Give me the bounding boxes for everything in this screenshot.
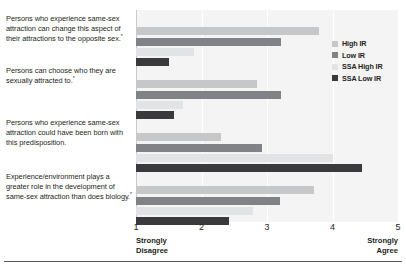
- category-label: Persons can choose who they are sexually…: [6, 66, 133, 86]
- legend-label: SSA High IR: [342, 62, 383, 71]
- bar: [136, 101, 183, 109]
- bar: [136, 58, 169, 66]
- axis-anchor-low-line2: Disagree: [136, 246, 168, 256]
- x-tick-label: 1: [133, 222, 138, 232]
- bar: [136, 27, 319, 35]
- x-tick-label: 4: [330, 222, 335, 232]
- bar: [136, 38, 281, 46]
- bar: [136, 207, 253, 215]
- bar-group: [136, 133, 398, 154]
- bar: [136, 111, 174, 119]
- axis-anchor-low: Strongly Disagree: [136, 236, 168, 255]
- legend-label: Low IR: [342, 51, 365, 60]
- legend-swatch-icon: [332, 52, 338, 58]
- axis-anchor-high-line1: Strongly: [330, 236, 398, 246]
- legend-swatch-icon: [332, 64, 338, 70]
- bar: [136, 197, 280, 205]
- footnote-marker: *: [121, 33, 123, 39]
- grouped-bar-chart: Persons who experience same-sex attracti…: [0, 0, 406, 268]
- axis-anchor-high-line2: Agree: [330, 246, 398, 256]
- bar-group: [136, 186, 398, 207]
- x-axis-tick-labels: 12345: [136, 222, 398, 236]
- footnote-marker: *: [130, 191, 132, 197]
- legend-swatch-icon: [332, 75, 338, 81]
- legend-label: High IR: [342, 39, 366, 48]
- legend-item[interactable]: Low IR: [332, 50, 406, 62]
- bar: [136, 48, 194, 56]
- legend-label: SSA Low IR: [342, 74, 381, 83]
- legend-swatch-icon: [332, 41, 338, 47]
- x-tick-label: 3: [264, 222, 269, 232]
- x-tick-label: 5: [395, 222, 400, 232]
- bottom-divider: [4, 261, 402, 262]
- axis-anchor-low-line1: Strongly: [136, 236, 168, 246]
- bar: [136, 144, 262, 152]
- footnote-marker: *: [73, 75, 75, 81]
- x-tick-label: 2: [199, 222, 204, 232]
- bar: [136, 80, 257, 88]
- axis-anchor-high: Strongly Agree: [330, 236, 398, 255]
- legend-item[interactable]: High IR: [332, 38, 406, 50]
- category-label: Persons who experience same-sex attracti…: [6, 118, 133, 149]
- chart-legend: High IRLow IRSSA High IRSSA Low IR: [332, 38, 406, 84]
- bar: [136, 133, 221, 141]
- legend-item[interactable]: SSA Low IR: [332, 73, 406, 85]
- category-label: Persons who experience same-sex attracti…: [6, 14, 133, 45]
- legend-item[interactable]: SSA High IR: [332, 61, 406, 73]
- bar: [136, 91, 281, 99]
- bar: [136, 154, 333, 162]
- category-label: Experience/environment plays a greater r…: [6, 172, 133, 203]
- category-label-column: Persons who experience same-sex attracti…: [0, 12, 133, 220]
- bar: [136, 164, 362, 172]
- bar: [136, 186, 314, 194]
